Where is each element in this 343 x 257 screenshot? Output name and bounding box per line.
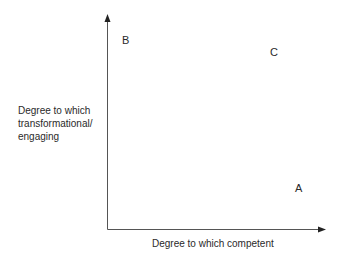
point-label-c: C [270, 46, 278, 58]
point-label-a: A [295, 182, 302, 194]
y-axis-label-line-1: Degree to which [18, 104, 92, 117]
y-axis-label-line-3: engaging [18, 130, 92, 143]
y-axis-label: Degree to which transformational/ engagi… [18, 104, 92, 143]
y-axis-arrowhead-icon [105, 14, 111, 22]
x-axis-arrowhead-icon [318, 227, 326, 233]
point-label-b: B [122, 34, 129, 46]
x-axis-label: Degree to which competent [152, 237, 274, 250]
y-axis-label-line-2: transformational/ [18, 117, 92, 130]
